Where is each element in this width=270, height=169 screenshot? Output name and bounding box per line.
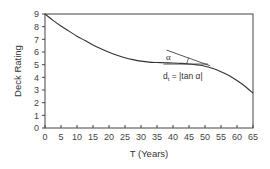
x-tick-label: 10	[72, 132, 82, 142]
x-tick-label: 0	[42, 132, 47, 142]
x-tick-label: 40	[168, 132, 178, 142]
y-tick-label: 5	[34, 60, 39, 70]
angle-arc	[186, 58, 188, 64]
x-tick-label: 45	[184, 132, 194, 142]
x-tick-label: 5	[58, 132, 63, 142]
y-tick-label: 7	[34, 35, 39, 45]
y-tick-label: 3	[34, 85, 39, 95]
x-tick-label: 60	[232, 132, 242, 142]
x-tick-label: 55	[216, 132, 226, 142]
formula-label: dt = |tan α|	[163, 71, 203, 82]
plot-frame	[45, 14, 253, 128]
y-tick-label: 9	[34, 9, 39, 19]
y-tick-label: 2	[34, 98, 39, 108]
deck-rating-chart: 0123456789 05101520253035404550556065 De…	[0, 0, 270, 169]
y-axis-ticks: 0123456789	[34, 9, 45, 133]
y-tick-label: 1	[34, 111, 39, 121]
y-tick-label: 8	[34, 22, 39, 32]
x-tick-label: 35	[152, 132, 162, 142]
x-tick-label: 15	[88, 132, 98, 142]
x-tick-label: 65	[248, 132, 258, 142]
deterioration-curve	[45, 14, 253, 93]
x-tick-label: 50	[200, 132, 210, 142]
y-tick-label: 0	[34, 123, 39, 133]
y-axis-title: Deck Rating	[12, 45, 23, 97]
x-tick-label: 30	[136, 132, 146, 142]
x-tick-label: 25	[120, 132, 130, 142]
y-tick-label: 6	[34, 47, 39, 57]
x-tick-label: 20	[104, 132, 114, 142]
y-tick-label: 4	[34, 73, 39, 83]
x-axis-title: T (Years)	[130, 148, 169, 159]
alpha-label: α	[166, 52, 171, 62]
